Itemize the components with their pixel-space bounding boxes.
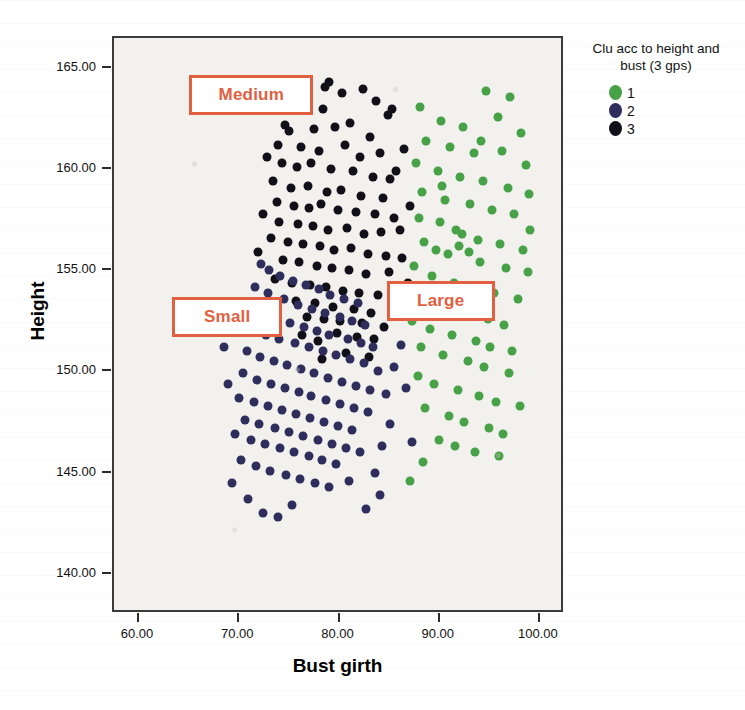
data-point: [319, 347, 328, 356]
data-point: [487, 205, 496, 214]
data-point: [318, 456, 327, 465]
data-point: [447, 331, 456, 340]
data-point: [359, 230, 368, 239]
y-axis-tick-label: 160.00: [32, 160, 96, 175]
x-axis-tick-label: 100.00: [518, 626, 558, 641]
data-point: [311, 478, 320, 487]
data-point: [458, 122, 467, 131]
data-point: [399, 145, 408, 154]
data-point: [381, 252, 390, 261]
data-point: [370, 468, 379, 477]
data-point: [363, 250, 372, 259]
data-point: [284, 238, 293, 247]
data-point: [295, 258, 304, 267]
data-point: [475, 258, 484, 267]
data-point: [381, 389, 390, 398]
data-point: [385, 175, 394, 184]
data-point: [325, 482, 334, 491]
data-point: [434, 436, 443, 445]
data-point: [375, 490, 384, 499]
data-point: [524, 189, 533, 198]
data-point: [436, 116, 445, 125]
data-point: [365, 133, 374, 142]
data-point: [397, 254, 406, 263]
data-point: [259, 508, 268, 517]
data-point: [435, 217, 444, 226]
data-point: [409, 262, 418, 271]
data-point: [516, 128, 525, 137]
data-point: [330, 246, 339, 255]
data-point: [309, 221, 318, 230]
annotation-callout-medium: Medium: [189, 75, 313, 115]
data-point: [375, 149, 384, 158]
data-point: [270, 357, 279, 366]
data-point: [478, 177, 487, 186]
data-point: [493, 112, 502, 121]
data-point: [332, 351, 341, 360]
data-point: [481, 86, 490, 95]
data-point: [384, 268, 393, 277]
data-point: [241, 415, 250, 424]
data-point: [387, 104, 396, 113]
data-point: [463, 357, 472, 366]
data-point: [453, 385, 462, 394]
y-axis-tick: [102, 66, 111, 68]
data-point: [444, 411, 453, 420]
data-point: [251, 282, 260, 291]
data-point: [274, 512, 283, 521]
data-point: [507, 347, 516, 356]
data-point: [348, 167, 357, 176]
data-point: [376, 228, 385, 237]
y-axis-tick: [102, 572, 111, 574]
data-point: [368, 173, 377, 182]
data-point: [310, 369, 319, 378]
data-point: [344, 266, 353, 275]
data-point: [285, 126, 294, 135]
annotation-callout-large: Large: [387, 281, 495, 321]
data-point: [293, 163, 302, 172]
data-point: [319, 104, 328, 113]
data-point: [415, 102, 424, 111]
data-point: [515, 401, 524, 410]
data-point: [347, 316, 356, 325]
data-point: [346, 244, 355, 253]
data-point: [331, 122, 340, 131]
data-point: [276, 272, 285, 281]
x-axis-tick: [538, 613, 540, 622]
data-point: [485, 343, 494, 352]
data-point: [465, 199, 474, 208]
data-point: [433, 167, 442, 176]
data-point: [306, 413, 315, 422]
data-point: [499, 320, 508, 329]
data-point: [429, 379, 438, 388]
data-point: [278, 159, 287, 168]
data-point: [335, 312, 344, 321]
data-point: [313, 327, 322, 336]
x-axis-tick-label: 60.00: [121, 626, 154, 641]
data-point: [271, 424, 280, 433]
data-point: [261, 440, 270, 449]
data-point: [355, 448, 364, 457]
legend-item-2[interactable]: 2: [609, 102, 736, 120]
data-point: [389, 363, 398, 372]
legend-item-3[interactable]: 3: [609, 120, 736, 138]
data-point: [315, 284, 324, 293]
data-point: [286, 318, 295, 327]
data-point: [405, 476, 414, 485]
data-point: [521, 161, 530, 170]
data-point: [457, 230, 466, 239]
data-point: [501, 264, 510, 273]
data-point: [518, 246, 527, 255]
legend-item-1[interactable]: 1: [609, 84, 736, 102]
data-point: [281, 383, 290, 392]
data-point: [497, 147, 506, 156]
data-point: [365, 385, 374, 394]
data-point: [327, 165, 336, 174]
data-point: [291, 339, 300, 348]
legend-title: Clu acc to height and bust (3 gps): [576, 40, 736, 75]
data-point: [220, 343, 229, 352]
y-axis-tick: [102, 268, 111, 270]
legend-marker-icon: [609, 121, 622, 136]
data-point: [498, 430, 507, 439]
data-point: [440, 195, 449, 204]
